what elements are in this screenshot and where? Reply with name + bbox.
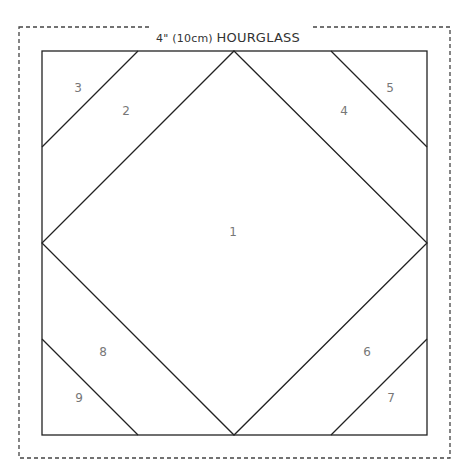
piece-label-4: 4 [340,104,348,118]
block-name: HOURGLASS [217,30,300,45]
seam-9-8 [42,339,138,435]
block-outline [42,51,427,435]
piece-label-5: 5 [386,81,394,95]
piece-label-2: 2 [122,104,130,118]
seam-5-4 [331,51,427,147]
center-diamond [42,51,427,435]
piece-label-7: 7 [387,391,395,405]
seam-3-2 [42,51,138,147]
piece-label-8: 8 [99,345,107,359]
piece-label-6: 6 [363,345,371,359]
piece-label-3: 3 [74,81,82,95]
seam-7-6 [331,339,427,435]
piece-label-9: 9 [75,391,83,405]
piece-label-1: 1 [229,225,237,239]
block-size: 4" (10cm) [156,32,216,45]
block-title: 4" (10cm) HOURGLASS [0,30,456,45]
